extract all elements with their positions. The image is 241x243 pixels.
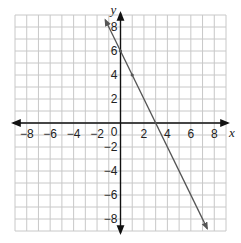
x-tick-label: 4 — [164, 127, 171, 141]
y-tick-label: 6 — [111, 44, 118, 58]
x-tick-label: −8 — [20, 127, 34, 141]
origin-label: 0 — [111, 125, 118, 139]
axes — [13, 13, 228, 233]
y-tick-label: 2 — [111, 92, 118, 106]
x-tick-label: −4 — [67, 127, 81, 141]
data-point — [131, 73, 134, 76]
x-tick-label: 8 — [211, 127, 218, 141]
data-point — [119, 49, 122, 52]
y-tick-label: −8 — [104, 212, 118, 226]
y-tick-label: −6 — [104, 188, 118, 202]
y-axis-label: y — [109, 2, 117, 17]
coordinate-plane-chart: xy−8−6−4−22468−8−6−4−224680 — [0, 0, 241, 243]
x-tick-label: 2 — [141, 127, 148, 141]
y-tick-label: −4 — [104, 164, 118, 178]
x-axis-label: x — [228, 125, 235, 140]
x-tick-label: −2 — [90, 127, 104, 141]
x-tick-label: −6 — [43, 127, 57, 141]
y-tick-label: −2 — [104, 140, 118, 154]
y-tick-label: 4 — [111, 68, 118, 82]
x-tick-label: 6 — [187, 127, 194, 141]
